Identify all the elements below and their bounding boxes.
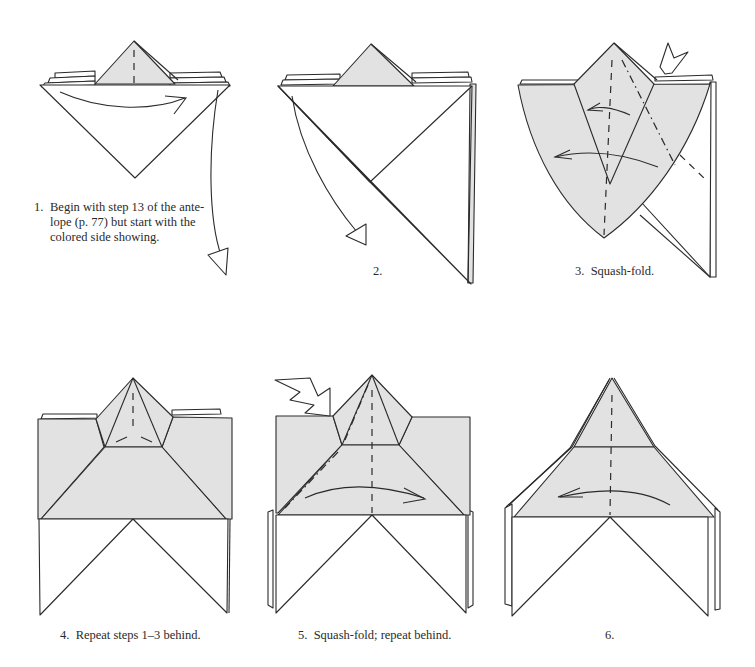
colored-trapezoid: [514, 447, 714, 517]
push-arrow-icon: [275, 378, 330, 416]
left-white-panel: [39, 519, 133, 615]
right-white-panel: [133, 519, 228, 613]
right-flap-layer: [412, 77, 472, 83]
caption-text: Squash-fold.: [591, 264, 655, 278]
step-number: 1.: [34, 200, 50, 245]
step-5-caption: 5. Squash-fold; repeat behind.: [298, 628, 451, 643]
right-side-edge: [468, 84, 476, 283]
right-flap-layer: [172, 409, 221, 415]
step-number: 3.: [575, 264, 584, 278]
step-4-caption: 4. Repeat steps 1–3 behind.: [60, 628, 201, 643]
caption-line: colored side showing.: [50, 230, 214, 245]
step-2-diagram: [278, 44, 476, 284]
right-flap-layer: [655, 75, 713, 81]
step-3-caption: 3. Squash-fold.: [575, 264, 654, 279]
colored-kite-tip: [333, 44, 414, 86]
caption-text: Squash-fold; repeat behind.: [314, 628, 452, 642]
origami-diagram-canvas: .ln { stroke: #2b2b2b; stroke-width: 1.1…: [0, 0, 755, 667]
right-side-edge: [468, 510, 473, 608]
step-3-diagram: [518, 43, 716, 277]
step-number: 6.: [605, 628, 614, 642]
step-6-caption: 6.: [605, 628, 614, 643]
right-white-panel: [610, 517, 708, 616]
right-layers: [715, 508, 720, 610]
white-square-base: [40, 85, 230, 178]
step-6-diagram: [505, 378, 720, 616]
white-square-base: [278, 86, 472, 182]
left-flap-layer: [281, 79, 340, 85]
colored-tip: [574, 378, 654, 447]
step-4-diagram: [38, 378, 232, 615]
caption-line: lope (p. 77) but start with the: [50, 215, 214, 230]
caption-line: Begin with step 13 of the ante-: [50, 200, 214, 215]
step-number: 5.: [298, 628, 307, 642]
push-arrow-icon: [660, 43, 688, 74]
left-white-panel: [512, 517, 610, 616]
left-side-edge: [268, 510, 273, 608]
hollow-arrow-head: [208, 248, 228, 275]
step-2-caption: 2.: [373, 264, 382, 279]
edge: [229, 519, 230, 613]
colored-kite-tip: [95, 41, 175, 84]
colored-pentagon: [96, 378, 173, 447]
left-layers: [505, 504, 512, 606]
left-flap-layer: [520, 80, 580, 84]
caption-text: Repeat steps 1–3 behind.: [76, 628, 201, 642]
step-number: 4.: [60, 628, 69, 642]
step-5-diagram: [268, 375, 473, 613]
left-flap-layer: [41, 414, 97, 419]
step-1-caption: 1. Begin with step 13 of the ante- lope …: [34, 200, 214, 245]
right-white-panel: [372, 515, 466, 613]
hollow-arrow-head: [346, 224, 366, 245]
step-number: 2.: [373, 264, 382, 278]
left-white-panel: [276, 515, 372, 613]
